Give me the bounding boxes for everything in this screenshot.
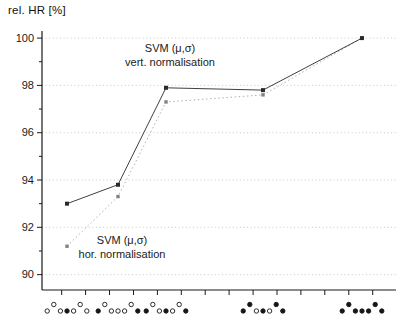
x-category-glyph-circle <box>274 302 278 306</box>
x-category-glyph-circle <box>267 309 271 313</box>
x-category-glyph-circle <box>353 309 357 313</box>
annotation-vert-line2: vert. normalisation <box>106 56 234 70</box>
x-category-glyph-circle <box>52 302 56 306</box>
x-category-glyph-circle <box>116 309 120 313</box>
y-tick-label: 92 <box>22 221 34 233</box>
x-category-glyph-circle <box>157 309 161 313</box>
series-marker-hor <box>261 93 264 96</box>
x-category-glyph-circle <box>366 309 370 313</box>
x-category-glyph-circle <box>380 309 384 313</box>
x-category-glyph-circle <box>129 302 133 306</box>
x-category-glyph-circle <box>184 309 188 313</box>
y-tick-label: 96 <box>22 126 34 138</box>
x-category-glyph-circle <box>103 302 107 306</box>
x-category-glyph-circle <box>241 309 245 313</box>
x-category-glyph-circle <box>151 302 155 306</box>
x-category-glyph-circle <box>281 309 285 313</box>
x-category-glyph-circle <box>96 309 100 313</box>
annotation-hor-line1: SVM (μ,σ) <box>58 234 186 248</box>
x-category-glyph-circle <box>360 309 364 313</box>
x-category-glyph-circle <box>65 309 69 313</box>
x-category-glyph-circle <box>58 309 62 313</box>
annotation-hor-line2: hor. normalisation <box>58 248 186 262</box>
series-marker-vert <box>360 36 364 40</box>
x-category-glyph-circle <box>261 309 265 313</box>
x-category-glyph-circle <box>78 302 82 306</box>
series-marker-vert <box>116 183 120 187</box>
x-category-glyph-circle <box>340 309 344 313</box>
x-category-glyph-circle <box>254 309 258 313</box>
series-marker-vert <box>164 86 168 90</box>
y-tick-label: 94 <box>22 174 34 186</box>
x-category-glyph-circle <box>109 309 113 313</box>
x-category-glyph-circle <box>373 302 377 306</box>
x-category-glyph-circle <box>144 309 148 313</box>
x-category-glyph-circle <box>136 309 140 313</box>
annotation-hor-normalisation: SVM (μ,σ) hor. normalisation <box>58 234 186 261</box>
x-category-glyph-circle <box>248 302 252 306</box>
series-marker-hor <box>116 195 119 198</box>
x-category-glyph-circle <box>164 309 168 313</box>
series-marker-hor <box>164 100 167 103</box>
series-line-hor-normalisation <box>67 38 362 246</box>
x-category-glyph-circle <box>85 309 89 313</box>
y-tick-label: 90 <box>22 268 34 280</box>
series-marker-vert <box>261 88 265 92</box>
x-category-glyph-circle <box>347 302 351 306</box>
x-category-glyph-circle <box>177 302 181 306</box>
chart-figure: rel. HR [%] 9092949698100 SVM (μ,σ) vert… <box>0 0 400 329</box>
x-category-glyph-circle <box>45 309 49 313</box>
y-tick-label: 98 <box>22 79 34 91</box>
annotation-vert-normalisation: SVM (μ,σ) vert. normalisation <box>106 42 234 69</box>
x-category-glyph-circle <box>71 309 75 313</box>
x-category-glyph-circle <box>122 309 126 313</box>
y-tick-label: 100 <box>16 32 34 44</box>
annotation-vert-line1: SVM (μ,σ) <box>106 42 234 56</box>
x-category-glyph-circle <box>170 309 174 313</box>
series-marker-vert <box>65 202 69 206</box>
